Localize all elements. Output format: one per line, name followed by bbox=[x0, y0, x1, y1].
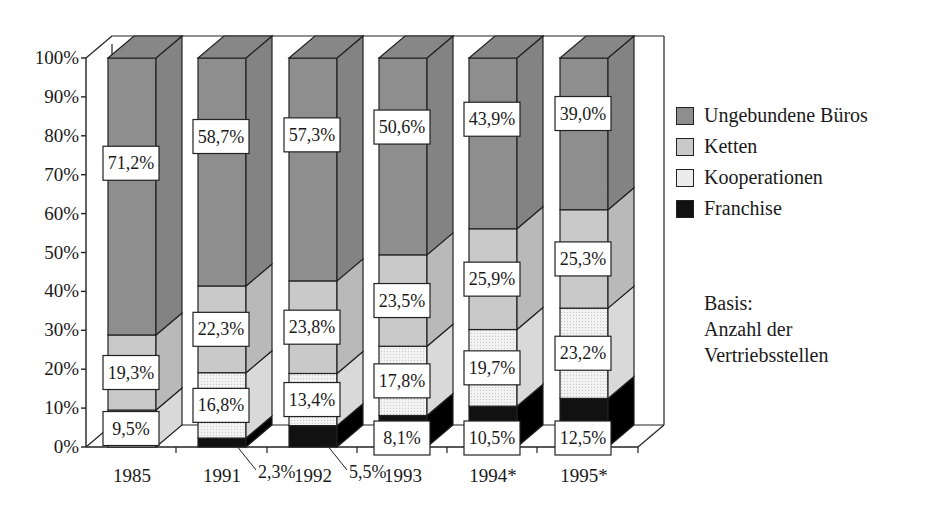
value-label: 13,4% bbox=[289, 390, 336, 410]
x-category-label: 1995* bbox=[560, 465, 608, 486]
bar-segment-front bbox=[198, 438, 246, 447]
y-tick-label: 30% bbox=[44, 319, 79, 340]
note-line: Vertriebsstellen bbox=[704, 342, 828, 368]
basis-note: Basis: Anzahl der Vertriebsstellen bbox=[704, 290, 828, 368]
bar-segment-side bbox=[517, 36, 543, 229]
value-label: 71,2% bbox=[108, 153, 155, 173]
legend: Ungebundene Büros Ketten Kooperationen F… bbox=[676, 100, 868, 224]
floor-right-edge bbox=[638, 425, 664, 447]
y-tick-label: 40% bbox=[44, 280, 79, 301]
bar-segment-side bbox=[337, 36, 363, 281]
note-line: Basis: bbox=[704, 290, 828, 316]
bar-segment-front bbox=[379, 58, 427, 255]
y-tick-label: 60% bbox=[44, 203, 79, 224]
x-category-label: 1993 bbox=[384, 465, 422, 486]
legend-swatch-ungebundene bbox=[676, 107, 694, 125]
bar-segment-front bbox=[108, 58, 156, 335]
bar-segment-front bbox=[289, 426, 337, 447]
legend-label: Kooperationen bbox=[704, 166, 823, 189]
y-tick-label: 70% bbox=[44, 164, 79, 185]
value-label: 57,3% bbox=[289, 125, 336, 145]
value-label: 19,7% bbox=[469, 358, 516, 378]
value-label: 9,5% bbox=[112, 419, 150, 439]
legend-label: Franchise bbox=[704, 197, 782, 220]
value-label: 25,3% bbox=[560, 249, 607, 269]
callout-label: 2,3% bbox=[258, 462, 296, 482]
legend-swatch-ketten bbox=[676, 138, 694, 156]
value-label: 58,7% bbox=[198, 127, 245, 147]
value-label: 19,3% bbox=[108, 363, 155, 383]
value-label: 50,6% bbox=[379, 117, 426, 137]
bar-segment-front bbox=[198, 58, 246, 286]
value-label: 25,9% bbox=[469, 269, 516, 289]
note-line: Anzahl der bbox=[704, 316, 828, 342]
bar-segment-front bbox=[289, 58, 337, 281]
legend-label: Ketten bbox=[704, 135, 757, 158]
y-tick-label: 50% bbox=[44, 242, 79, 263]
value-label: 8,1% bbox=[383, 428, 421, 448]
legend-item-ungebundene: Ungebundene Büros bbox=[676, 100, 868, 131]
value-label: 22,3% bbox=[198, 319, 245, 339]
bar-segment-side bbox=[246, 36, 272, 286]
value-label: 17,8% bbox=[379, 371, 426, 391]
x-category-label: 1994* bbox=[469, 465, 517, 486]
value-label: 12,5% bbox=[560, 428, 607, 448]
legend-swatch-kooperationen bbox=[676, 169, 694, 187]
legend-label: Ungebundene Büros bbox=[704, 104, 868, 127]
legend-item-ketten: Ketten bbox=[676, 131, 868, 162]
bar-segment-side bbox=[156, 36, 182, 335]
stacked-bar-chart: 0%10%20%30%40%50%60%70%80%90%100% 19859,… bbox=[0, 0, 930, 513]
value-label: 43,9% bbox=[469, 109, 516, 129]
x-category-label: 1992 bbox=[294, 465, 332, 486]
y-tick-label: 80% bbox=[44, 125, 79, 146]
y-tick-label: 0% bbox=[54, 436, 80, 457]
value-label: 10,5% bbox=[469, 428, 516, 448]
value-label: 39,0% bbox=[560, 104, 607, 124]
x-category-label: 1985 bbox=[113, 465, 151, 486]
bar-segment-front bbox=[560, 58, 608, 210]
callout-label: 5,5% bbox=[349, 462, 387, 482]
bar-segment-front bbox=[469, 58, 517, 229]
y-tick-label: 90% bbox=[44, 86, 79, 107]
legend-item-kooperationen: Kooperationen bbox=[676, 162, 868, 193]
back-wall-top-left-edge bbox=[86, 36, 112, 58]
y-tick-label: 100% bbox=[35, 47, 80, 68]
value-label: 23,2% bbox=[560, 343, 607, 363]
value-label: 16,8% bbox=[198, 395, 245, 415]
value-label: 23,8% bbox=[289, 317, 336, 337]
legend-swatch-franchise bbox=[676, 200, 694, 218]
bar-segment-side bbox=[427, 36, 453, 255]
y-tick-label: 20% bbox=[44, 358, 79, 379]
legend-item-franchise: Franchise bbox=[676, 193, 868, 224]
x-category-label: 1991 bbox=[203, 465, 241, 486]
y-tick-label: 10% bbox=[44, 397, 79, 418]
bar-segment-side bbox=[608, 36, 634, 210]
value-label: 23,5% bbox=[379, 291, 426, 311]
